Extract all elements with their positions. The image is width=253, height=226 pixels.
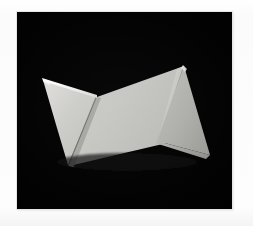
page-canvas: Photograph of a folded sheet of white pa…: [0, 0, 253, 226]
photograph: [17, 12, 232, 209]
origami-illustration: [17, 12, 232, 209]
shadow-under-form: [57, 153, 197, 171]
